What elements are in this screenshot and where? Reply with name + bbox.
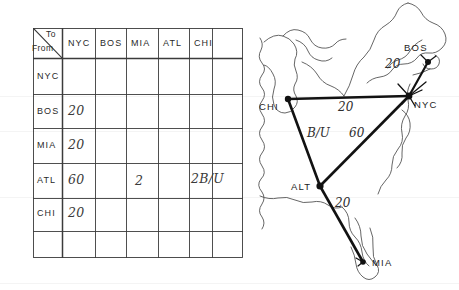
figure-canvas: To From NYC BOS MIA ATL CHI NYC BOS MIA …	[0, 0, 459, 290]
column-header-atl: ATL	[163, 38, 182, 48]
corner-from-label: From	[32, 43, 53, 53]
corner-to-label: To	[46, 29, 56, 39]
distance-matrix-table: To From NYC BOS MIA ATL CHI NYC BOS MIA …	[33, 28, 243, 258]
matrix-grid	[33, 28, 243, 258]
row-header-chi: CHI	[37, 208, 56, 218]
row-header-atl: ATL	[37, 175, 56, 185]
node-bos	[425, 59, 431, 65]
row-header-mia: MIA	[37, 140, 56, 150]
map-edge-label-alt-mia: 20	[335, 196, 350, 210]
node-alt	[316, 182, 323, 189]
column-header-nyc: NYC	[68, 38, 90, 48]
node-mia	[360, 259, 366, 265]
cell-atl-nyc: 60	[68, 172, 85, 187]
map-node-label-alt: ALT	[291, 181, 311, 192]
map-edge-label-nyc-alt: 60	[349, 126, 364, 140]
map-node-label-nyc: NYC	[414, 99, 438, 110]
node-nyc	[406, 93, 413, 100]
network-edges	[288, 96, 409, 262]
map-node-label-bos: BOS	[404, 42, 428, 53]
column-header-mia: MIA	[131, 38, 150, 48]
map-edge-label-chi-alt: B/U	[307, 126, 330, 140]
map-edge-label-bos-nyc: 20	[385, 57, 400, 71]
column-header-bos: BOS	[100, 38, 122, 48]
network-nodes	[285, 59, 431, 265]
map-edge-label-chi-nyc: 20	[338, 100, 353, 114]
edge-chi-alt	[288, 99, 320, 186]
cell-atl-chi: 2B/U	[191, 171, 224, 186]
map-node-label-chi: CHI	[259, 101, 279, 112]
node-chi	[285, 96, 291, 102]
cell-mia-nyc: 20	[68, 137, 85, 152]
network-map: CHI NYC BOS ALT MIA 20 20 B/U 60 20	[250, 0, 459, 290]
map-node-label-mia: MIA	[372, 257, 393, 268]
cell-chi-nyc: 20	[68, 205, 85, 220]
edge-chi-nyc	[288, 96, 409, 99]
cell-atl-mia: 2	[135, 173, 143, 188]
row-header-bos: BOS	[37, 106, 59, 116]
cell-bos-nyc: 20	[68, 103, 85, 118]
column-header-chi: CHI	[194, 38, 213, 48]
row-header-nyc: NYC	[37, 71, 59, 81]
edge-nyc-alt	[320, 96, 409, 186]
